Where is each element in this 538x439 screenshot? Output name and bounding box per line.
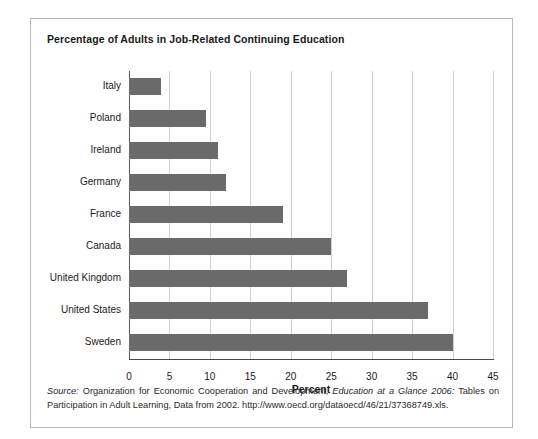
bar bbox=[129, 110, 206, 127]
x-tick-label: 20 bbox=[285, 371, 296, 382]
bar-row: United Kingdom bbox=[129, 263, 493, 295]
bar-row: United States bbox=[129, 295, 493, 327]
category-label: Germany bbox=[80, 173, 121, 191]
bar bbox=[129, 238, 331, 255]
figure-container: Percentage of Adults in Job-Related Cont… bbox=[30, 18, 513, 428]
bar-row: Sweden bbox=[129, 327, 493, 359]
bar bbox=[129, 270, 347, 287]
category-label: Sweden bbox=[85, 333, 121, 351]
x-tick-label: 40 bbox=[447, 371, 458, 382]
x-tick-label: 35 bbox=[407, 371, 418, 382]
bar-row: Germany bbox=[129, 167, 493, 199]
category-label: United Kingdom bbox=[50, 269, 121, 287]
x-tick-label: 5 bbox=[167, 371, 173, 382]
x-tick-label: 0 bbox=[126, 371, 132, 382]
bar bbox=[129, 334, 453, 351]
bar-row: Italy bbox=[129, 71, 493, 103]
bar bbox=[129, 206, 283, 223]
bar bbox=[129, 302, 428, 319]
bar-row: Ireland bbox=[129, 135, 493, 167]
category-label: United States bbox=[61, 301, 121, 319]
bar bbox=[129, 142, 218, 159]
source-publication-title: Education at a Glance 2006: bbox=[332, 386, 454, 396]
x-tick-label: 30 bbox=[366, 371, 377, 382]
plot-wrapper: 051015202530354045ItalyPolandIrelandGerm… bbox=[31, 63, 514, 363]
bar bbox=[129, 174, 226, 191]
bar bbox=[129, 78, 161, 95]
category-label: Italy bbox=[103, 77, 121, 95]
x-axis-baseline bbox=[129, 359, 494, 360]
gridline-45 bbox=[493, 71, 494, 359]
category-label: Poland bbox=[90, 109, 121, 127]
category-label: Canada bbox=[86, 237, 121, 255]
category-label: Ireland bbox=[90, 141, 121, 159]
category-label: France bbox=[90, 205, 121, 223]
bar-row: Canada bbox=[129, 231, 493, 263]
x-tick-label: 15 bbox=[245, 371, 256, 382]
plot-area: 051015202530354045ItalyPolandIrelandGerm… bbox=[129, 71, 493, 359]
x-tick-label: 45 bbox=[487, 371, 498, 382]
source-note: Source: Organization for Economic Cooper… bbox=[47, 385, 499, 412]
x-tick-label: 10 bbox=[204, 371, 215, 382]
bar-row: Poland bbox=[129, 103, 493, 135]
chart-title: Percentage of Adults in Job-Related Cont… bbox=[47, 33, 344, 45]
bar-row: France bbox=[129, 199, 493, 231]
x-tick-label: 25 bbox=[326, 371, 337, 382]
source-text-first: Organization for Economic Cooperation an… bbox=[79, 386, 333, 396]
source-label: Source: bbox=[47, 386, 79, 396]
